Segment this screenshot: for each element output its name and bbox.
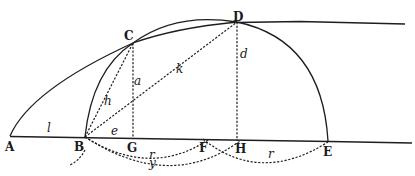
dashed-b-to-d bbox=[85, 22, 237, 137]
point-label-b: B bbox=[74, 141, 84, 153]
point-label-d: D bbox=[233, 11, 243, 23]
baseline bbox=[10, 137, 412, 144]
dashed-b-to-c bbox=[85, 43, 133, 137]
segment-label-h: h bbox=[104, 95, 112, 107]
segment-label-d: d bbox=[240, 48, 248, 60]
point-label-e: E bbox=[323, 146, 332, 158]
arc-d-to-e bbox=[237, 22, 328, 141]
segment-label-k: k bbox=[176, 63, 183, 75]
top-line bbox=[237, 22, 405, 25]
point-label-c: C bbox=[124, 30, 134, 42]
geometric-diagram: A B G F H E C D l e a h k d r r y bbox=[0, 0, 415, 176]
dashed-arc-f-to-e bbox=[203, 139, 328, 163]
segment-label-l: l bbox=[47, 122, 51, 134]
point-label-h: H bbox=[235, 143, 246, 155]
point-label-g: G bbox=[127, 142, 137, 154]
arc-c-to-d-lower bbox=[133, 22, 237, 43]
dashed-arc-b-to-h bbox=[85, 137, 240, 166]
point-label-a: A bbox=[5, 141, 14, 153]
curve-a-to-c bbox=[10, 43, 133, 136]
point-label-f: F bbox=[199, 142, 208, 154]
segment-label-a: a bbox=[134, 75, 141, 87]
segment-label-y: y bbox=[149, 157, 156, 169]
segment-label-r-right: r bbox=[268, 148, 274, 160]
segment-label-e: e bbox=[111, 125, 118, 137]
